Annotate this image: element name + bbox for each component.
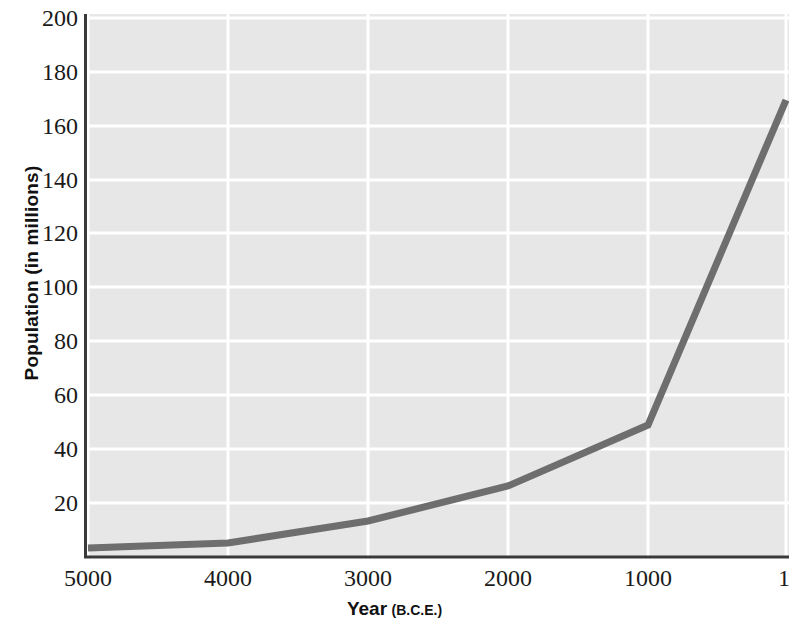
x-tick-label: 5000 xyxy=(28,566,148,590)
x-axis-title-main: Year xyxy=(347,598,387,619)
x-tick-label: 2000 xyxy=(448,566,568,590)
y-tick-label: 20 xyxy=(22,491,78,515)
x-tick-label: 3000 xyxy=(308,566,428,590)
y-axis-title: Population (in millions) xyxy=(21,123,43,423)
y-tick-label: 180 xyxy=(22,60,78,84)
y-tick-label: 200 xyxy=(22,6,78,30)
y-tick-label: 40 xyxy=(22,437,78,461)
x-axis-title: Year (B.C.E.) xyxy=(0,598,789,620)
x-axis-title-era: (B.C.E.) xyxy=(392,602,443,618)
x-axis-tick-labels: 5000 4000 3000 2000 1000 1 xyxy=(0,566,789,600)
x-tick-label: 1 xyxy=(724,566,794,590)
x-tick-label: 4000 xyxy=(168,566,288,590)
x-tick-label: 1000 xyxy=(588,566,708,590)
